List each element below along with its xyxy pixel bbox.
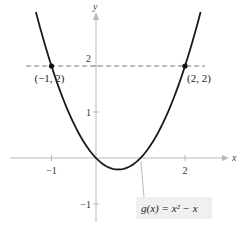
y-axis-label: y [92, 1, 98, 12]
x-tick-label: 2 [183, 165, 188, 176]
intersection-point [182, 63, 187, 68]
y-tick-label: 2 [86, 53, 91, 64]
intersection-point [49, 63, 54, 68]
y-tick-label: −1 [80, 199, 91, 210]
y-tick-label: 1 [86, 107, 91, 118]
annotation-leader [141, 161, 144, 197]
parabola-curve [36, 12, 201, 169]
point-label: (2, 2) [187, 72, 211, 85]
point-label: (−1, 2) [34, 72, 64, 85]
function-label: g(x) = x² − x [141, 202, 198, 215]
y-axis-arrow-icon [93, 12, 99, 20]
x-axis-label: x [231, 152, 237, 163]
x-tick-label: −1 [46, 165, 57, 176]
function-graph: xy−1221−1 (−1, 2)(2, 2) g(x) = x² − x [0, 0, 242, 232]
x-axis-arrow-icon [222, 155, 229, 161]
